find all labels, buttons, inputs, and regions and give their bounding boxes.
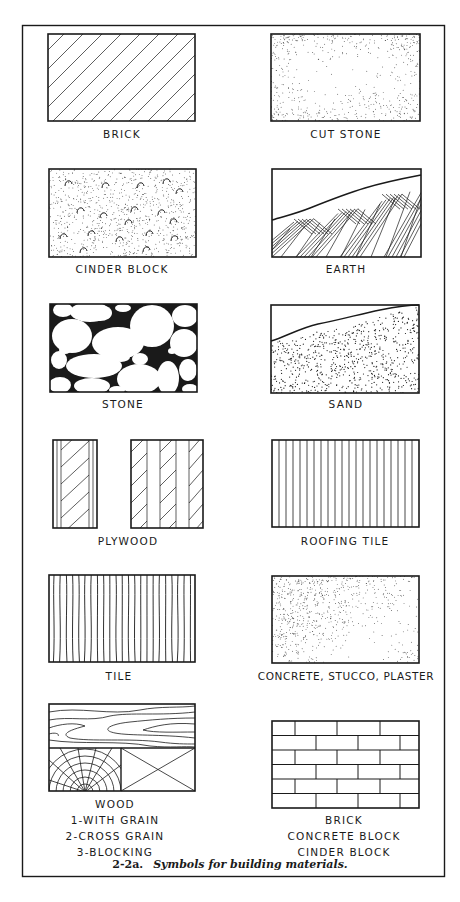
label-sand: SAND <box>329 398 364 410</box>
symbol-earth <box>252 169 446 257</box>
building-materials-figure <box>0 0 460 902</box>
label-masonry-line-1: BRICK <box>287 812 400 828</box>
label-wood-line-1: WOOD <box>66 796 165 812</box>
label-roofing-tile: ROOFING TILE <box>301 535 390 547</box>
label-masonry: BRICK CONCRETE BLOCK CINDER BLOCK <box>287 812 400 860</box>
symbol-roofing-tile <box>272 440 419 527</box>
label-cut-stone: CUT STONE <box>310 128 381 140</box>
symbol-sand <box>270 305 419 393</box>
label-wood: WOOD 1-WITH GRAIN 2-CROSS GRAIN 3-BLOCKI… <box>66 796 165 860</box>
label-wood-line-3: 2-CROSS GRAIN <box>66 828 165 844</box>
symbol-cut-stone <box>271 34 421 122</box>
label-wood-line-2: 1-WITH GRAIN <box>66 812 165 828</box>
label-tile: TILE <box>106 670 133 682</box>
figure-number: 2-2a. <box>112 858 143 871</box>
label-cinder-block: CINDER BLOCK <box>75 263 168 275</box>
symbol-masonry <box>272 721 419 808</box>
label-plywood: PLYWOOD <box>98 535 159 547</box>
symbol-brick <box>0 34 292 121</box>
symbol-cinder-block <box>49 169 197 258</box>
symbol-stone <box>49 302 198 397</box>
figure-caption-text: Symbols for building materials. <box>153 858 347 871</box>
figure-caption: 2-2a.Symbols for building materials. <box>112 858 347 871</box>
label-brick: BRICK <box>103 128 141 140</box>
label-masonry-line-2: CONCRETE BLOCK <box>287 828 400 844</box>
label-earth: EARTH <box>326 263 367 275</box>
symbol-tile <box>49 575 195 662</box>
symbol-concrete <box>272 576 419 663</box>
label-stone: STONE <box>102 398 144 410</box>
label-concrete: CONCRETE, STUCCO, PLASTER <box>258 670 434 682</box>
